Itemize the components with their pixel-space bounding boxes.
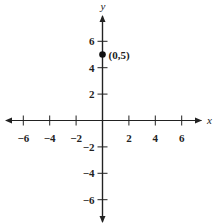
x-tick-label: 2 [126,132,132,144]
x-tick-label: −4 [44,132,56,144]
y-axis-label: y [100,0,106,12]
y-tick-label: −4 [83,167,95,179]
y-tick-label: 2 [89,88,95,100]
data-point [99,51,106,58]
x-tick-label: −6 [17,132,29,144]
y-tick-label: 4 [89,62,95,74]
data-point-label: (0,5) [109,49,130,62]
coordinate-plane: xy−6−4−2246−6−4−2246 (0,5) [0,0,216,224]
x-tick-label: 6 [179,132,185,144]
y-tick-label: −6 [83,194,95,206]
x-axis-label: x [206,114,212,126]
x-tick-label: −2 [70,132,82,144]
y-tick-label: 6 [89,35,95,47]
x-tick-label: 4 [153,132,159,144]
y-tick-label: −2 [83,141,95,153]
